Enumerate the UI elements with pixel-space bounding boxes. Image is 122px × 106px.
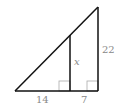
label-base-left: 14 — [36, 95, 49, 105]
label-right-side: 22 — [102, 45, 115, 55]
diagram: 14 7 22 x — [0, 0, 122, 106]
right-angle-mark-inner — [59, 81, 70, 91]
hypotenuse-line — [15, 7, 98, 91]
label-inner-segment: x — [74, 57, 80, 67]
right-angle-mark-outer — [87, 81, 98, 91]
label-base-right: 7 — [81, 95, 87, 105]
